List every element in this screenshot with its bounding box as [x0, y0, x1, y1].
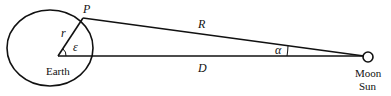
- label-r: r: [61, 26, 66, 40]
- moon-circle: [363, 52, 373, 62]
- label-moon: Moon: [355, 67, 382, 79]
- label-alpha: α: [275, 43, 282, 57]
- label-P: P: [82, 2, 91, 16]
- earth-moon-parallax-diagram: P r ε R D α Earth Moon Sun: [0, 0, 391, 96]
- label-R: R: [197, 17, 206, 31]
- epsilon-angle-arc: [63, 49, 66, 56]
- label-sun: Sun: [359, 80, 377, 92]
- label-earth: Earth: [46, 65, 70, 77]
- label-epsilon: ε: [73, 40, 78, 54]
- line-R: [83, 18, 364, 56]
- alpha-angle-arc: [287, 46, 288, 56]
- label-D: D: [197, 61, 207, 75]
